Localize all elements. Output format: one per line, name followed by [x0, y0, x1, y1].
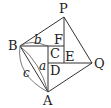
- label-b: B: [8, 38, 18, 53]
- label-q: Q: [94, 56, 105, 71]
- geometry-diagram: P B F C E D Q A b a c: [0, 0, 111, 108]
- label-side-a: a: [39, 59, 46, 73]
- label-c: C: [50, 46, 60, 61]
- label-e: E: [65, 49, 75, 64]
- label-d: D: [50, 63, 60, 78]
- label-side-b: b: [34, 33, 42, 47]
- label-a: A: [42, 93, 53, 108]
- label-f: F: [54, 32, 63, 47]
- label-p: P: [59, 1, 68, 16]
- label-side-c: c: [23, 66, 30, 80]
